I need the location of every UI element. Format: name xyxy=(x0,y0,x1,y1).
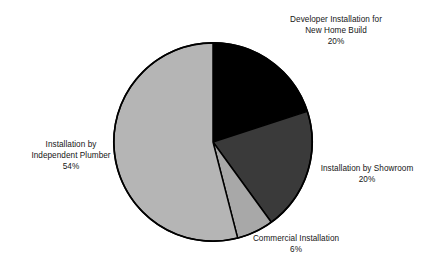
slice-label-developer: Developer Installation for New Home Buil… xyxy=(247,14,425,48)
slice-label-developer-line2: New Home Build xyxy=(247,25,425,36)
slice-label-showroom-line1: Installation by Showroom xyxy=(300,163,434,174)
slice-label-commercial: Commercial Installation 6% xyxy=(234,233,358,255)
slice-label-plumber-line2: Independent Plumber xyxy=(8,150,134,161)
slice-label-developer-percent: 20% xyxy=(247,36,425,47)
slice-label-plumber-percent: 54% xyxy=(8,161,134,172)
slice-label-plumber: Installation by Independent Plumber 54% xyxy=(8,139,134,173)
pie-slices xyxy=(114,43,312,241)
slice-label-commercial-percent: 6% xyxy=(234,244,358,255)
slice-label-plumber-line1: Installation by xyxy=(8,139,134,150)
slice-label-showroom: Installation by Showroom 20% xyxy=(300,163,434,185)
slice-label-commercial-line1: Commercial Installation xyxy=(234,233,358,244)
slice-label-developer-line1: Developer Installation for xyxy=(247,14,425,25)
pie-chart: Developer Installation for New Home Buil… xyxy=(0,0,436,276)
slice-label-showroom-percent: 20% xyxy=(300,174,434,185)
